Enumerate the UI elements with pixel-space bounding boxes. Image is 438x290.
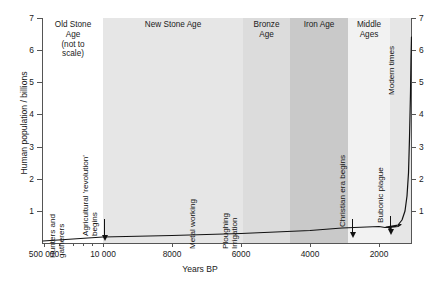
population-chart-figure: Old Stone Age (not to scale) New Stone A…: [0, 0, 438, 290]
y-axis-title: Human population / billions: [19, 43, 29, 203]
xtick-minor-2: [73, 243, 74, 246]
xtick-minor-4: [92, 243, 93, 246]
ylabel-right-2: 2: [419, 174, 433, 184]
x-axis-title: Years BP: [182, 264, 218, 274]
xlabel-8000: 8000: [163, 249, 182, 259]
xlabel-2000: 2000: [370, 249, 389, 259]
ylabel-right-4: 4: [419, 109, 433, 119]
xtick-2000: [379, 243, 380, 247]
xtick-500000: [44, 243, 45, 247]
xtick-4000: [310, 243, 311, 247]
ylabel-7: 7: [20, 13, 34, 23]
ylabel-right-6: 6: [419, 45, 433, 55]
xlabel-6000: 6000: [232, 249, 251, 259]
population-curve: [42, 18, 412, 243]
ylabel-right-7: 7: [419, 13, 433, 23]
xtick-6000: [241, 243, 242, 247]
xtick-minor-3: [83, 243, 84, 246]
xlabel-10000: 10 000: [90, 249, 116, 259]
ylabel-right-1: 1: [419, 206, 433, 216]
ylabel-right-5: 5: [419, 77, 433, 87]
xtick-8000: [172, 243, 173, 247]
xtick-10000: [103, 243, 104, 247]
ylabel-right-3: 3: [419, 142, 433, 152]
xlabel-4000: 4000: [301, 249, 320, 259]
ylabel-1: 1: [20, 206, 34, 216]
